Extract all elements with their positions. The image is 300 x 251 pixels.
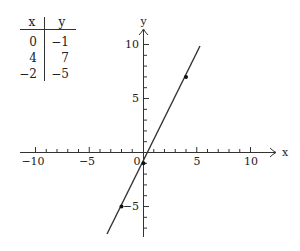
table-cell-y: −5 bbox=[51, 67, 69, 81]
graph-canvas: x y 0 −1 4 7 −2 −5 bbox=[0, 0, 300, 251]
y-tick-label: 5 bbox=[132, 92, 139, 105]
x-tick-label: −5 bbox=[79, 155, 95, 168]
x-tick-label: −10 bbox=[21, 155, 44, 168]
x-tick-label: 10 bbox=[244, 155, 258, 168]
data-point bbox=[184, 75, 188, 79]
table-cell-y: −1 bbox=[51, 35, 69, 49]
data-point bbox=[120, 205, 124, 209]
y-tick-label: −5 bbox=[123, 200, 139, 213]
table-header-y: y bbox=[58, 15, 66, 29]
y-axis-label: y bbox=[139, 15, 147, 28]
x-axis-label: x bbox=[282, 146, 289, 159]
table-cell-x: 0 bbox=[29, 35, 37, 49]
value-table: x y 0 −1 4 7 −2 −5 bbox=[19, 15, 76, 81]
table-cell-x: −2 bbox=[19, 67, 37, 81]
origin-label: 0 bbox=[134, 155, 141, 168]
table-cell-y: 7 bbox=[61, 51, 69, 65]
x-axis: −10 −5 5 10 0 x bbox=[20, 146, 289, 168]
x-tick-label: 5 bbox=[194, 155, 201, 168]
y-axis: 10 5 −5 y bbox=[123, 15, 149, 237]
table-header-x: x bbox=[29, 15, 36, 29]
data-point bbox=[142, 161, 146, 165]
table-cell-x: 4 bbox=[29, 51, 37, 65]
y-tick-label: 10 bbox=[125, 38, 139, 51]
y-axis-ticks bbox=[144, 45, 150, 229]
